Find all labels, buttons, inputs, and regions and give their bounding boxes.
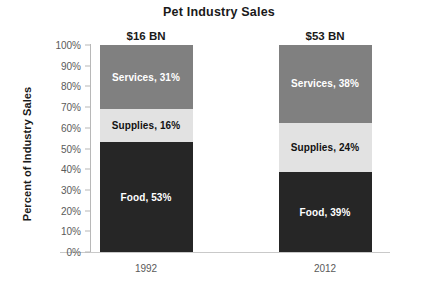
bar-segment-label: Services, 38% (291, 78, 359, 89)
bar-segment-label: Food, 53% (121, 192, 172, 203)
x-axis-category-label: 1992 (80, 252, 213, 274)
stacked-bar-chart: Pet Industry Sales Percent of Industry S… (0, 0, 438, 282)
bar-total-label: $53 BN (279, 30, 372, 45)
bar-group[interactable]: $53 BNServices, 38%Supplies, 24%Food, 39… (279, 45, 372, 252)
y-axis-tick-mark (85, 189, 90, 190)
bar-segment-food[interactable]: Food, 39% (279, 172, 372, 252)
bar-stack: Services, 38%Supplies, 24%Food, 39% (279, 45, 372, 252)
x-axis-category-label: 2012 (259, 252, 392, 274)
y-axis-tick-mark (85, 231, 90, 232)
bar-segment-label: Supplies, 16% (112, 120, 181, 131)
y-axis-tick-mark (85, 210, 90, 211)
y-axis-tick-mark (85, 169, 90, 170)
bar-segment-supplies[interactable]: Supplies, 24% (279, 123, 372, 172)
plot-area: 100%90%80%70%60%50%40%30%20%10%0% $16 BN… (90, 45, 390, 252)
bar-segment-label: Supplies, 24% (291, 142, 360, 153)
bar-segment-supplies[interactable]: Supplies, 16% (100, 109, 193, 142)
bar-segment-label: Food, 39% (300, 207, 351, 218)
y-axis-tick-mark (85, 127, 90, 128)
bar-segment-label: Services, 31% (112, 72, 180, 83)
bar-total-label: $16 BN (100, 30, 193, 45)
chart-title: Pet Industry Sales (0, 5, 438, 19)
bar-stack: Services, 31%Supplies, 16%Food, 53% (100, 45, 193, 252)
bar-segment-services[interactable]: Services, 31% (100, 45, 193, 109)
y-axis-tick-mark (85, 148, 90, 149)
y-axis-tick-mark (85, 86, 90, 87)
y-axis-tick-mark (85, 107, 90, 108)
bar-segment-services[interactable]: Services, 38% (279, 45, 372, 123)
bar-group[interactable]: $16 BNServices, 31%Supplies, 16%Food, 53… (100, 45, 193, 252)
y-axis-title: Percent of Industry Sales (21, 69, 33, 239)
y-axis-tick-mark (85, 45, 90, 46)
y-axis-tick-mark (85, 65, 90, 66)
bar-segment-food[interactable]: Food, 53% (100, 142, 193, 252)
